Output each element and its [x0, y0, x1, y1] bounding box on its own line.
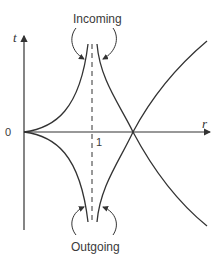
outgoing-far-curve — [133, 41, 207, 132]
outgoing-right-curve — [97, 132, 133, 222]
light-cone-diagram: t r 0 1 Incoming Outgoing — [0, 0, 218, 265]
outgoing-label: Outgoing — [71, 240, 120, 254]
origin-label: 0 — [5, 126, 11, 138]
ingoing-far-curve — [133, 132, 207, 226]
incoming-label: Incoming — [73, 12, 122, 26]
outgoing-arrow-left — [72, 207, 84, 235]
incoming-arrow-left — [72, 28, 84, 59]
ingoing-right-curve — [97, 44, 133, 132]
r-axis-label: r — [202, 116, 208, 131]
incoming-arrow-right — [103, 28, 116, 59]
t-axis-label: t — [13, 30, 17, 45]
tick-label-1: 1 — [96, 136, 102, 148]
outgoing-arrow-right — [103, 207, 116, 235]
outgoing-left-curve — [24, 132, 88, 222]
ingoing-left-curve — [24, 44, 88, 132]
